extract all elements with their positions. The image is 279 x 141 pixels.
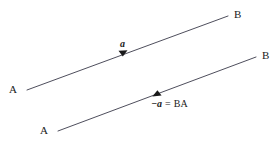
vector-ba-term: BA xyxy=(174,99,188,109)
vector-ba-head-label: B xyxy=(262,50,269,61)
negative-a-term: −a xyxy=(151,99,162,109)
vector-ba-tail-label: A xyxy=(40,125,48,136)
diagram-canvas xyxy=(0,0,279,141)
vector-diagram: A B a A B −a = BA xyxy=(0,0,279,141)
equals-sign: = xyxy=(164,99,172,109)
vector-ab-tail-label: A xyxy=(9,84,17,95)
vector-ba-letters: BA xyxy=(174,98,188,109)
vector-ba-arrowhead-icon xyxy=(152,90,161,96)
vector-ab-name-label: a xyxy=(120,39,125,49)
vector-ba-equation: −a = BA xyxy=(151,99,188,109)
vector-ab-head-label: B xyxy=(234,9,241,20)
